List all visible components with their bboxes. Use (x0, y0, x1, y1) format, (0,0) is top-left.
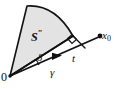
figure-canvas (0, 0, 119, 89)
ray-gamma-label: γ (50, 67, 54, 78)
angle-delta-label: δ (37, 52, 42, 63)
point-x0-label: x0 (102, 30, 111, 43)
origin-point-dot (8, 74, 11, 77)
segment-t-label: t (72, 53, 75, 64)
geometry-figure: S″ 0 δ γ t x0 (0, 0, 119, 89)
origin-label: 0 (1, 71, 7, 83)
sector-label: S″ (31, 29, 42, 43)
